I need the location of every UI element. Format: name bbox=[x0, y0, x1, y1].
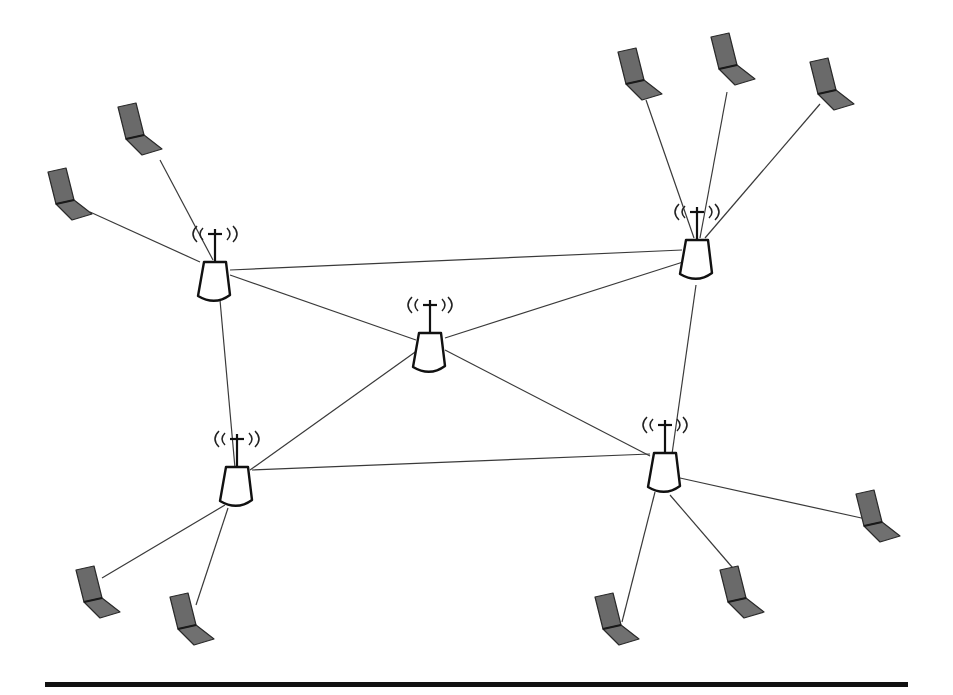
laptop-icon bbox=[711, 33, 755, 85]
laptop-icon bbox=[76, 566, 120, 618]
link-center-bl bbox=[250, 350, 418, 470]
router-links bbox=[220, 250, 696, 470]
link-tr-center bbox=[445, 262, 683, 338]
router-top-left bbox=[193, 226, 237, 301]
laptop-icon bbox=[170, 593, 214, 645]
mesh-network-diagram bbox=[0, 0, 953, 695]
router-center bbox=[408, 297, 452, 372]
laptop-icon bbox=[810, 58, 854, 110]
link-tr-br bbox=[672, 285, 696, 454]
link-tl-tr bbox=[230, 250, 682, 270]
router-top-right bbox=[675, 204, 719, 279]
laptop-icon bbox=[118, 103, 162, 155]
bottom-rule bbox=[45, 682, 908, 687]
link-tl-center bbox=[230, 275, 416, 340]
link-center-br bbox=[445, 350, 650, 456]
laptop-icon bbox=[856, 490, 900, 542]
laptop-icon bbox=[48, 168, 92, 220]
laptop-icon bbox=[720, 566, 764, 618]
link-bl-br bbox=[252, 454, 650, 470]
laptop-links bbox=[90, 92, 866, 622]
laptop-icon bbox=[618, 48, 662, 100]
laptop-icon bbox=[595, 593, 639, 645]
link-tl-bl bbox=[220, 300, 235, 468]
